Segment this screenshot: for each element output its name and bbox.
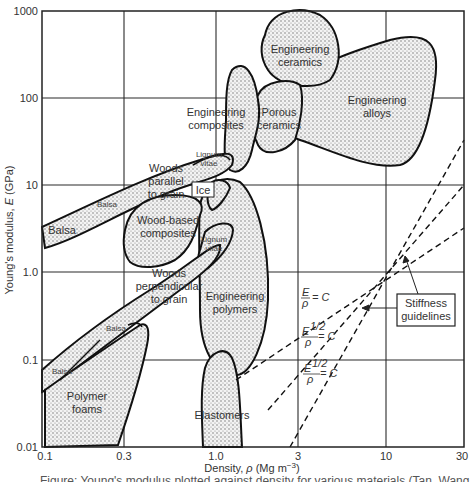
y-tick-10: 10 (26, 179, 38, 191)
x-tick-0.1: 0.1 (37, 450, 52, 462)
label-wood-based-composites: Wood-based (137, 214, 199, 226)
x-tick-labels: 0.1 0.3 1.0 3 10 30 (37, 450, 468, 462)
y-tick-1: 1.0 (23, 266, 38, 278)
label-polymer-foams-2: foams (72, 403, 102, 415)
label-engineering-ceramics: Engineering (271, 43, 330, 55)
label-woods-perpendicular: Woods (152, 267, 187, 279)
eq2-denominator: ρ (304, 336, 311, 348)
label-lignum-vitae: Lignum (196, 150, 223, 159)
eq3-denominator: ρ (306, 373, 313, 385)
figure-caption: Figure: Young's modulus plotted against … (40, 470, 476, 482)
label-elastomers: Elastomers (194, 409, 250, 421)
x-tick-10: 10 (380, 450, 392, 462)
material-regions (42, 10, 436, 447)
label-engineering-polymers: Engineering (206, 290, 265, 302)
x-tick-1.0: 1.0 (208, 450, 223, 462)
equation-e-half-over-rho-2: E 1/2 ρ = C (303, 357, 337, 385)
label-lignum-vitae-2: vitae (201, 159, 218, 168)
label-porous-ceramics: Porous (262, 106, 297, 118)
label-engineering-composites-2: composites (188, 119, 244, 131)
label-woods-perpendicular-2: perpendicular (136, 280, 203, 292)
label-polymer-foams: Polymer (67, 390, 108, 402)
y-tick-labels: 1000 100 10 1.0 0.1 0.01 (14, 5, 38, 453)
label-stiffness: Stiffness (405, 297, 447, 309)
label-woods-parallel-3: to grain (148, 188, 185, 200)
y-axis-title: Young's modulus, E (GPa) (3, 166, 15, 295)
label-balsa-2: Balsa (48, 224, 76, 236)
eq1-equals: = C (312, 291, 329, 303)
y-tick-100: 100 (20, 92, 38, 104)
label-engineering-alloys: Engineering (348, 94, 407, 106)
label-lignum-vitae-perp-2: vitae (206, 244, 223, 253)
label-engineering-composites: Engineering (187, 106, 246, 118)
label-engineering-ceramics-2: ceramics (278, 56, 323, 68)
equation-e-half-over-rho-1: E 1/2 ρ = C (301, 320, 335, 348)
label-guidelines: guidelines (401, 310, 451, 322)
y-tick-0.01: 0.01 (17, 441, 38, 453)
label-lignum-vitae-perp: Lignum (201, 235, 228, 244)
x-tick-0.3: 0.3 (116, 450, 131, 462)
eq3-equals: = C (320, 367, 337, 379)
eq2-equals: = C (318, 330, 335, 342)
label-woods-perpendicular-3: to grain (151, 293, 188, 305)
label-woods-parallel-2: parallel (148, 175, 183, 187)
y-tick-1000: 1000 (14, 5, 38, 17)
label-balsa-1: Balsa (97, 200, 118, 209)
x-tick-30: 30 (456, 450, 468, 462)
label-balsa-3: Balsa (106, 324, 127, 333)
eq1-denominator: ρ (301, 297, 308, 309)
label-porous-ceramics-2: ceramics (257, 119, 302, 131)
label-woods-parallel: Woods (149, 162, 184, 174)
label-engineering-polymers-2: polymers (213, 303, 258, 315)
equation-e-over-rho: E ρ = C (301, 286, 329, 309)
label-engineering-alloys-2: alloys (363, 107, 392, 119)
guideline-equations: E ρ = C E 1/2 ρ = C E 1/2 ρ = C (301, 286, 337, 385)
y-tick-0.1: 0.1 (23, 354, 38, 366)
label-balsa-4: Balsa (52, 367, 73, 376)
label-wood-based-composites-2: composites (140, 227, 196, 239)
label-ice: Ice (196, 184, 211, 196)
